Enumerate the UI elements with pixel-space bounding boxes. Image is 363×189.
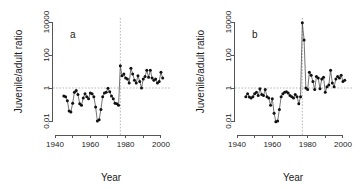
data-point [257, 94, 260, 97]
chart-canvas: 0.011100100001940196019802000aJuvenile/a… [0, 0, 363, 189]
y-axis-tick-label: 10000 [224, 10, 233, 33]
data-point [244, 95, 247, 98]
data-point [135, 82, 138, 85]
data-point [161, 77, 164, 80]
data-point [287, 91, 290, 94]
data-point [122, 73, 125, 76]
x-axis-tick-label: 2000 [334, 140, 352, 149]
x-axis-tick-label: 1980 [117, 140, 135, 149]
data-point [311, 80, 314, 83]
data-point [334, 78, 337, 81]
data-point [84, 92, 87, 95]
x-axis-tick-label: 1960 [263, 140, 281, 149]
data-point [331, 82, 334, 85]
y-axis-title: Juvenile/adult ratio [195, 29, 206, 113]
data-point [112, 97, 115, 100]
panel-letter-a: a [70, 29, 76, 40]
data-point [119, 64, 122, 67]
data-point [75, 89, 78, 92]
data-point [66, 99, 69, 102]
data-point [144, 75, 147, 78]
data-point [138, 80, 141, 83]
data-point [338, 77, 341, 80]
data-point [258, 87, 261, 90]
data-point [94, 106, 97, 109]
data-point [278, 108, 281, 111]
data-point [133, 79, 136, 82]
x-axis-title: Year [101, 172, 122, 183]
data-point [80, 104, 83, 107]
data-point [71, 102, 74, 105]
data-point [306, 88, 309, 91]
y-axis-tick-label: 100 [42, 48, 51, 62]
data-point [303, 39, 306, 42]
y-axis-tick-label: 0.01 [42, 113, 51, 129]
data-point [317, 77, 320, 80]
data-point [91, 92, 94, 95]
data-point [329, 69, 332, 72]
data-point [101, 95, 104, 98]
x-axis-tick-label: 1960 [81, 140, 99, 149]
y-axis-tick-label: 0.01 [224, 113, 233, 129]
data-point [98, 118, 101, 121]
y-axis-title: Juvenile/adult ratio [13, 29, 24, 113]
data-point [310, 74, 313, 77]
data-point [131, 73, 134, 76]
data-point [246, 92, 249, 95]
data-point [69, 111, 72, 114]
data-point [147, 76, 150, 79]
data-point [251, 95, 254, 98]
data-point [154, 78, 157, 81]
data-point [297, 102, 300, 105]
y-axis-tick-label: 10000 [42, 10, 51, 33]
data-point [273, 112, 276, 115]
y-axis-tick-label: 1 [224, 85, 233, 90]
x-axis-tick-label: 1940 [46, 140, 64, 149]
data-point [301, 21, 304, 24]
data-point [108, 90, 111, 93]
data-point [318, 87, 321, 90]
data-point [76, 93, 79, 96]
data-point [333, 85, 336, 88]
data-point [110, 94, 113, 97]
data-point [296, 95, 299, 98]
data-point [264, 88, 267, 91]
panel-letter-b: b [252, 29, 258, 40]
x-axis-title: Year [283, 172, 304, 183]
data-point [276, 120, 279, 123]
data-point [64, 95, 67, 98]
data-point [128, 82, 131, 85]
data-point [308, 71, 311, 74]
data-point [313, 88, 316, 91]
data-point [106, 87, 109, 90]
figure-container: 0.011100100001940196019802000aJuvenile/a… [0, 0, 363, 189]
data-point [140, 87, 143, 90]
data-point [292, 96, 295, 99]
data-point [324, 91, 327, 94]
data-point [92, 95, 95, 98]
data-point [129, 67, 132, 70]
data-point [280, 95, 283, 98]
figure-background [0, 0, 363, 189]
data-point [126, 78, 129, 81]
data-point [262, 94, 265, 97]
data-point [343, 79, 346, 82]
data-point [158, 80, 161, 83]
x-axis-tick-label: 1940 [228, 140, 246, 149]
data-point [340, 74, 343, 77]
data-point [271, 97, 274, 100]
data-point [105, 91, 108, 94]
data-point [117, 104, 120, 107]
x-axis-tick-label: 2000 [152, 140, 170, 149]
data-point [142, 78, 145, 81]
y-axis-tick-label: 100 [224, 48, 233, 62]
data-point [299, 95, 302, 98]
x-axis-tick-label: 1980 [299, 140, 317, 149]
data-point [99, 108, 102, 111]
data-point [322, 76, 325, 79]
y-axis-tick-label: 1 [42, 85, 51, 90]
data-point [145, 69, 148, 72]
data-point [82, 96, 85, 99]
data-point [87, 97, 90, 100]
data-point [255, 91, 258, 94]
